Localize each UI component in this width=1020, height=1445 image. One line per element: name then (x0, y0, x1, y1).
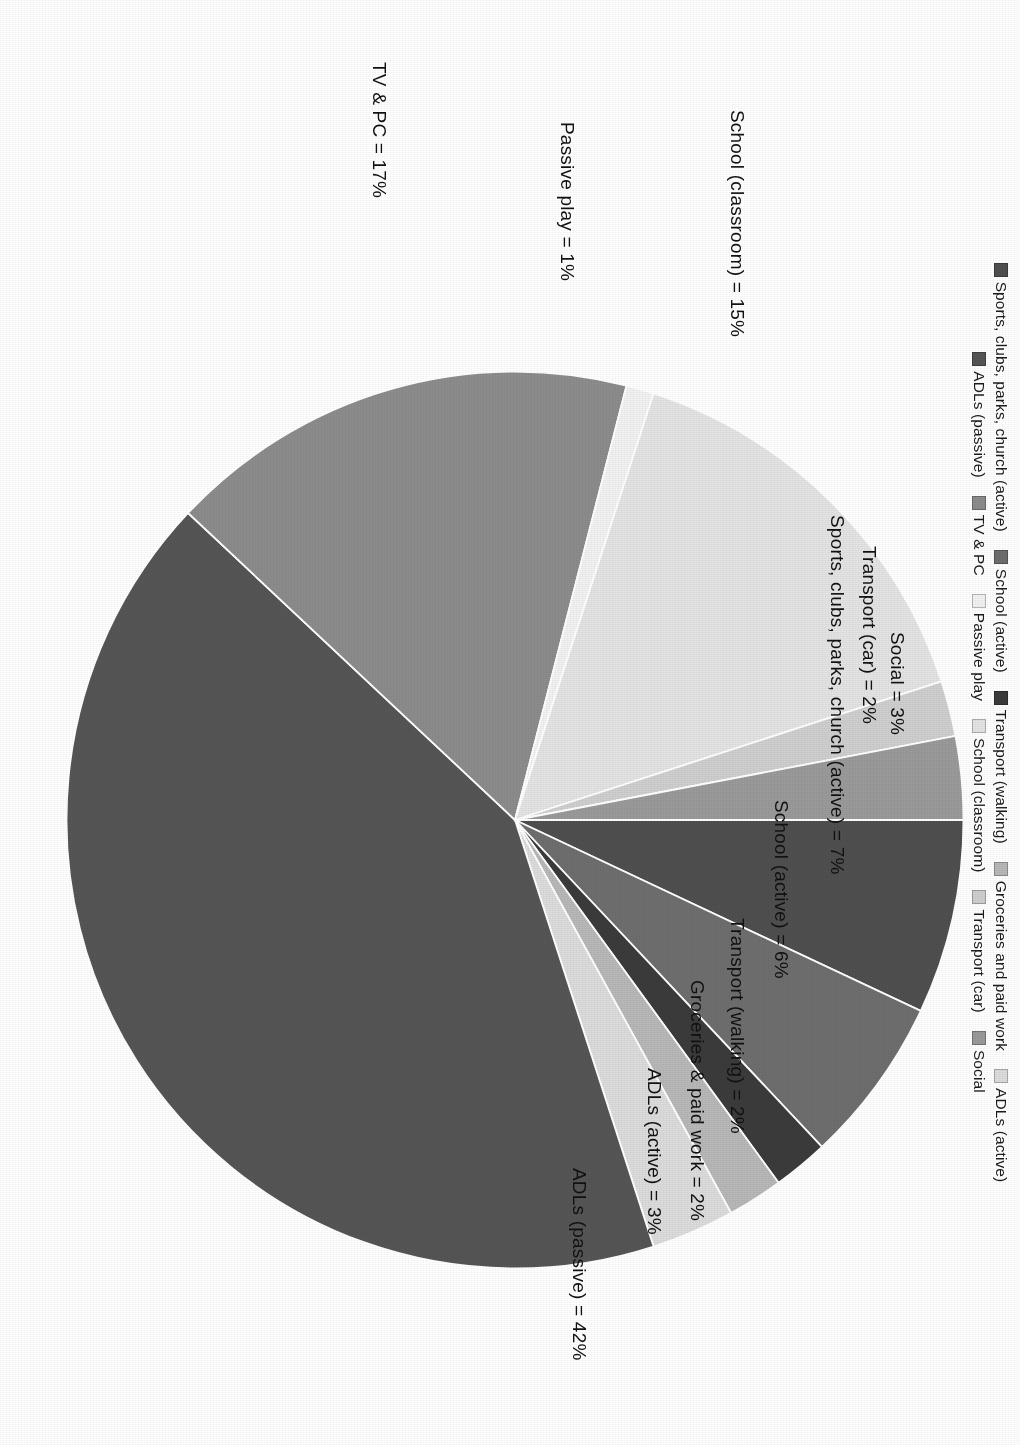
legend-item-sports[interactable]: Sports, clubs, parks, church (active) (992, 263, 1010, 532)
legend-row-1: Sports, clubs, parks, church (active) Sc… (992, 263, 1010, 1183)
callout-school-classroom: School (classroom) = 15% (726, 110, 748, 337)
legend-label-school-classroom: School (classroom) (970, 738, 988, 872)
legend-swatch-adls-passive (972, 352, 986, 366)
legend-item-transport-walking[interactable]: Transport (walking) (992, 691, 1010, 844)
legend-label-transport-car: Transport (car) (970, 909, 988, 1012)
legend-swatch-school-classroom (972, 719, 986, 733)
callout-adls-active: ADLs (active) = 3% (643, 1068, 665, 1235)
legend-item-school-classroom[interactable]: School (classroom) (970, 719, 988, 872)
legend-label-social: Social (970, 1050, 988, 1093)
legend-item-tv-pc[interactable]: TV & PC (970, 496, 988, 576)
callout-adls-passive: ADLs (passive) = 42% (568, 1168, 590, 1361)
legend-swatch-school-active (994, 550, 1008, 564)
legend-swatch-adls-active (994, 1069, 1008, 1083)
legend-swatch-transport-walking (994, 691, 1008, 705)
legend-item-transport-car[interactable]: Transport (car) (970, 890, 988, 1012)
legend-swatch-sports (994, 263, 1008, 277)
legend-item-adls-passive[interactable]: ADLs (passive) (970, 352, 988, 478)
legend-label-adls-passive: ADLs (passive) (970, 371, 988, 478)
callout-passive-play: Passive play = 1% (556, 122, 578, 281)
chart-legend: Sports, clubs, parks, church (active) Sc… (970, 0, 1010, 1445)
callout-tv-pc: TV & PC = 17% (368, 62, 390, 198)
chart-stage: Sports, clubs, parks, church (active) Sc… (0, 0, 1020, 1445)
legend-swatch-groceries (994, 862, 1008, 876)
legend-swatch-passive-play (972, 594, 986, 608)
legend-item-social[interactable]: Social (970, 1031, 988, 1093)
callout-groceries: Groceries & paid work = 2% (686, 980, 708, 1221)
legend-swatch-social (972, 1031, 986, 1045)
legend-item-school-active[interactable]: School (active) (992, 550, 1010, 673)
legend-item-adls-active[interactable]: ADLs (active) (992, 1069, 1010, 1182)
rotated-figure-canvas: Sports, clubs, parks, church (active) Sc… (0, 0, 1020, 1445)
callout-social: Social = 3% (886, 632, 908, 735)
legend-label-transport-walking: Transport (walking) (992, 710, 1010, 844)
legend-label-tv-pc: TV & PC (970, 515, 988, 576)
callout-sports: Sports, clubs, parks, church (active) = … (826, 515, 848, 875)
legend-item-passive-play[interactable]: Passive play (970, 594, 988, 701)
legend-label-sports: Sports, clubs, parks, church (active) (992, 282, 1010, 532)
legend-label-groceries: Groceries and paid work (992, 881, 1010, 1051)
callout-transport-car: Transport (car) = 2% (858, 546, 880, 724)
legend-label-school-active: School (active) (992, 569, 1010, 673)
legend-label-passive-play: Passive play (970, 613, 988, 701)
callout-transport-walking: Transport (walking) = 2% (726, 918, 748, 1134)
legend-label-adls-active: ADLs (active) (992, 1088, 1010, 1182)
callout-school-active: School (active) = 6% (770, 800, 792, 979)
legend-swatch-tv-pc (972, 496, 986, 510)
legend-item-groceries[interactable]: Groceries and paid work (992, 862, 1010, 1051)
legend-row-2: ADLs (passive) TV & PC Passive play Scho… (970, 352, 988, 1092)
legend-swatch-transport-car (972, 890, 986, 904)
